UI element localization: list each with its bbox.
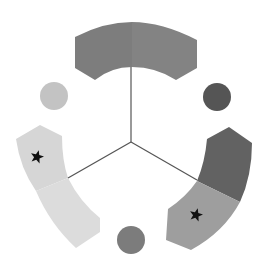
right-arm <box>166 127 252 250</box>
circle-upper-left <box>40 82 68 110</box>
top-arm-right-half <box>132 22 197 80</box>
left-arm-upper-segment <box>16 125 68 191</box>
top-arm-left-half <box>75 22 132 80</box>
top-arm <box>75 22 197 80</box>
circle-bottom <box>117 226 145 254</box>
radial-diagram <box>0 0 271 270</box>
spoke-left <box>68 142 131 178</box>
circle-upper-right <box>203 83 231 111</box>
arms-layer <box>16 22 252 250</box>
left-arm-lower-segment <box>36 178 100 248</box>
spoke-right <box>131 142 197 180</box>
spokes-layer <box>68 67 197 180</box>
left-arm <box>16 125 100 248</box>
diagram-canvas <box>0 0 271 270</box>
